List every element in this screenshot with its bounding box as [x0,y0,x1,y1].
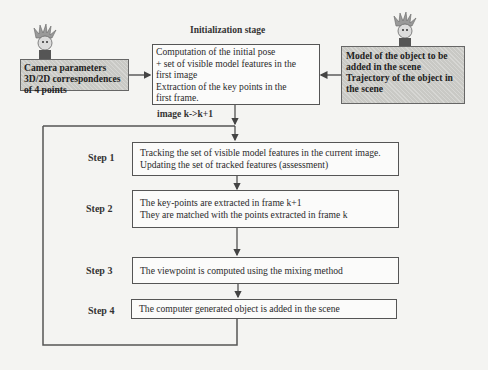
model-line: added in the scene [346,61,460,72]
camera-parameters-box: Camera parameters 3D/2D correspondences … [20,59,129,91]
loop-label: image k->k+1 [157,109,213,119]
camera-line: of 4 points [24,84,125,95]
step-4-box: The computer generated object is added i… [131,299,397,319]
model-line: Model of the object to be [346,50,460,61]
step-1-line: Updating the set of tracked features (as… [140,159,395,171]
camera-line: Camera parameters [24,62,125,73]
init-line: first image [156,69,316,81]
initialization-stage-title: Initialization stage [190,25,265,35]
object-model-box: Model of the object to be added in the s… [341,46,465,104]
step-3-label: Step 3 [86,265,112,276]
step-3-box: The viewpoint is computed using the mixi… [132,257,399,284]
step-4-line: The computer generated object is added i… [139,303,393,315]
step-2-line: They are matched with the points extract… [140,209,395,221]
init-line: + set of visible model features in the [156,58,316,70]
step-2-label: Step 2 [86,203,112,214]
init-line: first frame. [156,92,316,104]
step-3-line: The viewpoint is computed using the mixi… [140,265,395,277]
initialization-box: Computation of the initial pose + set of… [152,44,320,105]
cartoon-character-right-icon [390,12,420,48]
step-4-label: Step 4 [88,305,114,316]
model-line: Trajectory of the object in [346,72,460,83]
init-line: Computation of the initial pose [156,46,316,58]
step-2-line: The key-points are extracted in frame k+… [140,197,395,209]
step-1-box: Tracking the set of visible model featur… [132,142,399,176]
model-line: the scene [346,83,460,94]
step-2-box: The key-points are extracted in frame k+… [132,190,399,228]
step-1-label: Step 1 [88,152,114,163]
cartoon-character-left-icon [30,24,60,60]
step-1-line: Tracking the set of visible model featur… [140,147,395,159]
init-line: Extraction of the key points in the [156,81,316,93]
camera-line: 3D/2D correspondences [24,73,125,84]
